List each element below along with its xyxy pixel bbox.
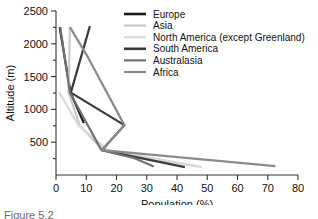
legend-label-africa: Africa	[153, 67, 179, 78]
chart-legend: EuropeAsiaNorth America (except Greenlan…	[124, 9, 305, 78]
x-tick-label: 10	[80, 182, 92, 194]
legend-label-asia: Asia	[153, 20, 173, 31]
legend-label-south-america: South America	[153, 43, 218, 54]
legend-label-europe: Europe	[153, 9, 186, 20]
y-tick-label: 2500	[24, 5, 48, 17]
x-tick-label: 40	[171, 182, 183, 194]
y-tick-label: 1000	[24, 103, 48, 115]
legend-label-north-america-except-greenland: North America (except Greenland)	[153, 32, 305, 43]
figure-container: 500100015002000250001020304050607080 Pop…	[0, 0, 318, 219]
y-tick-label: 500	[30, 136, 48, 148]
x-tick-label: 80	[292, 182, 304, 194]
x-axis-title: Population (%)	[141, 198, 213, 205]
y-tick-label: 1500	[24, 71, 48, 83]
legend-label-australasia: Australasia	[153, 55, 203, 66]
x-tick-label: 70	[262, 182, 274, 194]
x-tick-label: 30	[141, 182, 153, 194]
x-tick-label: 60	[231, 182, 243, 194]
x-tick-label: 20	[110, 182, 122, 194]
y-axis-title: Altitude (m)	[4, 65, 16, 121]
x-tick-label: 0	[53, 182, 59, 194]
altitude-population-line-chart: 500100015002000250001020304050607080 Pop…	[0, 0, 318, 205]
x-tick-label: 50	[201, 182, 213, 194]
y-tick-label: 2000	[24, 38, 48, 50]
figure-caption: Figure 5.2	[4, 209, 54, 219]
